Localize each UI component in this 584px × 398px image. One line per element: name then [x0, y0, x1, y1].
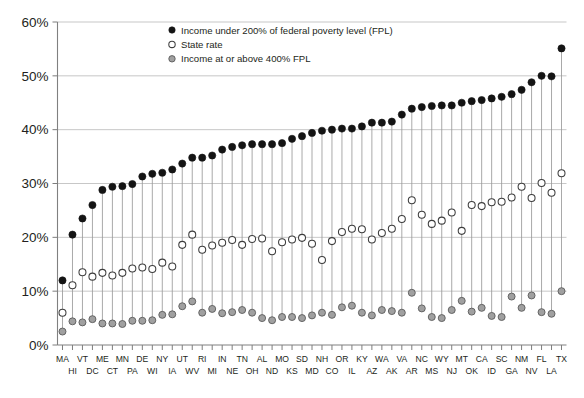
data-point-under200	[468, 98, 475, 105]
data-point-under200	[388, 118, 395, 125]
data-point-state-rate	[488, 199, 495, 206]
data-point-under200	[89, 201, 96, 208]
data-point-state-rate	[318, 256, 325, 263]
data-point-state-rate	[538, 179, 545, 186]
data-point-state-rate	[79, 269, 86, 276]
data-point-state-rate	[179, 241, 186, 248]
x-axis-label-pa: PA	[127, 366, 138, 376]
y-axis-labels-group: 0%10%20%30%40%50%60%	[21, 15, 48, 353]
data-point-above400	[528, 292, 535, 299]
y-axis-tick-label: 30%	[21, 176, 48, 191]
data-point-state-rate	[189, 231, 196, 238]
data-point-state-rate	[558, 170, 565, 177]
x-axis-label-me: ME	[96, 354, 109, 364]
data-point-under200	[229, 143, 236, 150]
x-axis-label-nh: NH	[316, 354, 328, 364]
data-point-above400	[229, 309, 236, 316]
data-point-above400	[398, 309, 405, 316]
data-point-under200	[538, 72, 545, 79]
x-axis-label-nj: NJ	[446, 366, 457, 376]
data-point-under200	[338, 125, 345, 132]
data-point-above400	[518, 304, 525, 311]
data-point-above400	[328, 311, 335, 318]
x-axis-label-ri: RI	[198, 354, 207, 364]
data-point-above400	[548, 310, 555, 317]
data-point-state-rate	[388, 225, 395, 232]
data-point-state-rate	[159, 259, 166, 266]
data-point-above400	[388, 308, 395, 315]
x-axis-label-wa: WA	[375, 354, 389, 364]
x-axis-label-az: AZ	[366, 366, 377, 376]
data-point-above400	[239, 307, 246, 314]
y-axis-tick-label: 10%	[21, 284, 48, 299]
x-axis-label-il: IL	[348, 366, 355, 376]
legend-marker-under200	[169, 27, 175, 33]
x-axis-ticks-group	[62, 345, 561, 350]
data-point-state-rate	[309, 240, 316, 247]
data-point-under200	[488, 95, 495, 102]
data-point-under200	[328, 126, 335, 133]
data-point-under200	[179, 160, 186, 167]
stems-group	[62, 48, 561, 331]
data-point-above400	[129, 317, 136, 324]
x-axis-label-ms: MS	[425, 366, 438, 376]
data-point-under200	[368, 119, 375, 126]
data-point-above400	[488, 312, 495, 319]
data-point-above400	[69, 318, 76, 325]
x-axis-label-fl: FL	[537, 354, 547, 364]
x-axis-label-ma: MA	[56, 354, 69, 364]
data-point-above400	[538, 309, 545, 316]
x-axis-label-or: OR	[335, 354, 348, 364]
data-point-above400	[179, 303, 186, 310]
data-point-above400	[378, 307, 385, 314]
data-point-under200	[119, 183, 126, 190]
data-point-under200	[268, 141, 275, 148]
data-point-state-rate	[438, 217, 445, 224]
y-axis-ticks-group	[53, 22, 58, 345]
data-point-above400	[448, 307, 455, 314]
data-point-under200	[109, 183, 116, 190]
data-point-state-rate	[328, 238, 335, 245]
data-point-state-rate	[338, 228, 345, 235]
data-point-above400	[508, 293, 515, 300]
data-point-under200	[528, 79, 535, 86]
data-point-above400	[498, 314, 505, 321]
data-point-under200	[418, 103, 425, 110]
data-point-under200	[278, 140, 285, 147]
data-point-above400	[219, 310, 226, 317]
x-axis-label-ny: NY	[156, 354, 168, 364]
data-point-under200	[318, 127, 325, 134]
data-point-under200	[189, 154, 196, 161]
x-axis-label-ga: GA	[505, 366, 518, 376]
data-point-state-rate	[139, 264, 146, 271]
data-point-under200	[508, 91, 515, 98]
data-point-state-rate	[408, 197, 415, 204]
data-point-under200	[358, 123, 365, 130]
data-point-state-rate	[448, 209, 455, 216]
x-axis-label-de: DE	[136, 354, 148, 364]
data-point-under200	[298, 133, 305, 140]
chart-legend: Income under 200% of federal poverty lev…	[169, 25, 393, 65]
data-point-above400	[358, 309, 365, 316]
data-point-state-rate	[378, 230, 385, 237]
data-point-under200	[438, 102, 445, 109]
x-axis-label-ca: CA	[476, 354, 488, 364]
x-axis-label-in: IN	[218, 354, 227, 364]
data-point-above400	[478, 304, 485, 311]
data-point-state-rate	[199, 246, 206, 253]
data-point-above400	[418, 305, 425, 312]
y-axis-tick-label: 40%	[21, 122, 48, 137]
data-point-under200	[548, 73, 555, 80]
data-point-state-rate	[368, 236, 375, 243]
data-point-above400	[189, 298, 196, 305]
data-point-under200	[139, 173, 146, 180]
data-point-above400	[149, 317, 156, 324]
data-point-above400	[309, 312, 316, 319]
data-point-above400	[468, 308, 475, 315]
data-point-state-rate	[59, 309, 66, 316]
data-point-under200	[159, 169, 166, 176]
data-point-state-rate	[129, 265, 136, 272]
data-point-above400	[269, 317, 276, 324]
data-point-state-rate	[119, 269, 126, 276]
data-point-under200	[149, 170, 156, 177]
